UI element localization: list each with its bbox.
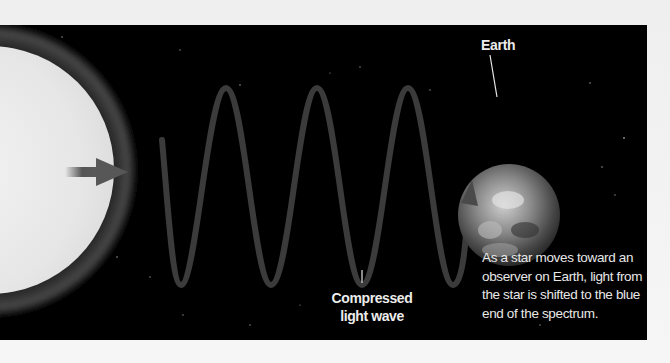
wave-label-line-2: light wave [322,307,422,325]
wave-label-line-1: Compressed [322,289,422,307]
diagram-panel: Earth Compressed light wave As a star mo… [0,25,647,340]
earth-leader-line [490,55,497,97]
compressed-wave-label: Compressed light wave [322,289,422,325]
diagram-caption: As a star moves toward an observer on Ea… [482,249,647,323]
earth-label: Earth [481,37,515,53]
compressed-light-wave [162,88,468,285]
